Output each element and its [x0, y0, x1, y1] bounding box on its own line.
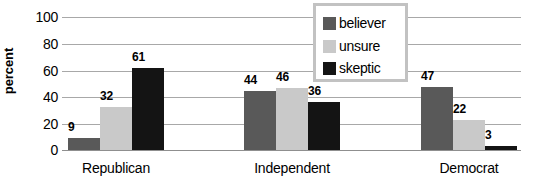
bar-value-republican-skeptic: 61: [132, 50, 145, 64]
legend-swatch-unsure-icon: [323, 40, 336, 53]
y-tick-60: 60: [18, 63, 58, 79]
bar-republican-skeptic[interactable]: [132, 68, 164, 150]
y-axis-title: percent: [0, 36, 20, 106]
y-tick-0: 0: [18, 142, 58, 158]
bar-value-republican-believer: 9: [68, 120, 74, 134]
y-tick-100: 100: [18, 9, 58, 25]
bar-chart: percent 100 80 60 40 20 0 9 32 61 Republ…: [0, 0, 533, 178]
bar-value-independent-unsure: 46: [276, 70, 289, 84]
axis-baseline: [62, 150, 521, 151]
category-label-democrat: Democrat: [419, 160, 519, 176]
y-tick-80: 80: [18, 36, 58, 52]
y-axis-tick-labels: 100 80 60 40 20 0: [18, 0, 58, 178]
bar-independent-believer[interactable]: [244, 91, 276, 150]
bar-value-democrat-unsure: 22: [453, 102, 466, 116]
bar-value-independent-believer: 44: [244, 73, 257, 87]
bar-democrat-unsure[interactable]: [453, 120, 485, 150]
bar-republican-unsure[interactable]: [100, 107, 132, 150]
bar-value-independent-skeptic: 36: [308, 84, 321, 98]
legend-label-unsure: unsure: [339, 39, 380, 53]
legend-swatch-believer-icon: [323, 17, 336, 30]
legend-item-unsure[interactable]: unsure: [323, 36, 380, 56]
legend: believer unsure skeptic: [313, 3, 408, 82]
legend-label-believer: believer: [339, 16, 386, 30]
legend-swatch-skeptic-icon: [323, 62, 336, 75]
bar-value-democrat-skeptic: 3: [485, 128, 491, 142]
bar-independent-unsure[interactable]: [276, 88, 308, 150]
gridline-60: [62, 71, 521, 72]
legend-item-skeptic[interactable]: skeptic: [323, 58, 380, 78]
bar-independent-skeptic[interactable]: [308, 102, 340, 150]
bar-value-democrat-believer: 47: [421, 69, 434, 83]
category-label-independent: Independent: [242, 160, 342, 176]
plot-area: 9 32 61 Republican 44 46 36 Independent …: [62, 0, 521, 178]
bar-republican-believer[interactable]: [68, 138, 100, 150]
legend-label-skeptic: skeptic: [339, 61, 380, 75]
y-tick-40: 40: [18, 89, 58, 105]
bar-democrat-skeptic[interactable]: [485, 146, 517, 150]
legend-item-believer[interactable]: believer: [323, 13, 386, 33]
y-tick-20: 20: [18, 116, 58, 132]
gridline-80: [62, 44, 521, 45]
gridline-100: [62, 17, 521, 18]
bar-democrat-believer[interactable]: [421, 87, 453, 150]
category-label-republican: Republican: [66, 160, 166, 176]
bar-value-republican-unsure: 32: [100, 89, 113, 103]
